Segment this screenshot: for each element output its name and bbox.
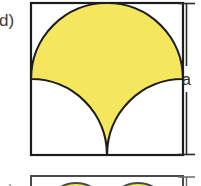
- geometry-figure: d) a: [0, 0, 201, 186]
- panel-label: d): [0, 11, 14, 30]
- next-panel-square-outline: [31, 176, 183, 186]
- figure-canvas: d) a: [0, 0, 201, 186]
- next-panel-label: e): [0, 181, 14, 186]
- dimension-label-a: a: [182, 71, 191, 88]
